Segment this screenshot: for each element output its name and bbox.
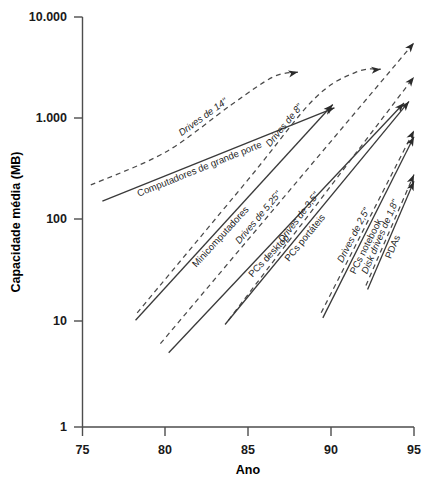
series-label: Drives de 14" <box>176 95 229 138</box>
y-tick-label-10: 10 <box>53 314 67 328</box>
x-tick-label-90: 90 <box>324 443 338 457</box>
x-tick-label-95: 95 <box>407 443 421 457</box>
series-4 <box>160 40 416 343</box>
series-arrowhead <box>371 66 381 74</box>
y-tick-label-1: 1 <box>60 420 67 434</box>
series-line <box>160 43 414 344</box>
series-label-layer: Drives de 14"Computadores de grande port… <box>135 95 402 279</box>
series-arrowhead <box>407 173 417 185</box>
capacity-vs-year-chart: 10.000 1.000 100 10 1 75 80 85 90 95 Ano… <box>0 0 441 481</box>
y-axis: 10.000 1.000 100 10 1 <box>29 10 83 434</box>
series-label: Computadores de grande porte <box>135 139 263 199</box>
x-tick-label-75: 75 <box>76 443 90 457</box>
x-tick-label-80: 80 <box>158 443 172 457</box>
y-tick-label-10000: 10.000 <box>29 10 67 24</box>
x-axis-title: Ano <box>236 463 261 477</box>
x-tick-label-85: 85 <box>241 443 255 457</box>
chart-plot-area: 10.000 1.000 100 10 1 75 80 85 90 95 Ano… <box>0 0 441 481</box>
x-axis: 75 80 85 90 95 <box>76 427 421 457</box>
series-line <box>321 131 414 313</box>
series-6 <box>228 75 417 320</box>
y-tick-label-1000: 1.000 <box>36 111 67 125</box>
series-arrowhead <box>405 75 416 87</box>
y-tick-label-100: 100 <box>46 212 67 226</box>
series-label: PDAs <box>383 233 403 260</box>
y-axis-title: Capacidade média (MB) <box>9 151 23 292</box>
